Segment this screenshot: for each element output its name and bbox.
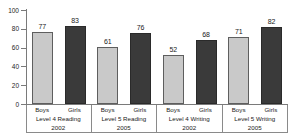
bar-value-label: 68 <box>194 31 218 38</box>
bar <box>228 37 249 104</box>
x-axis-category-label: Girls <box>189 105 221 114</box>
x-axis-group: BoysGirlsLevel 4 Writing2002 <box>157 105 223 133</box>
x-axis-group: BoysGirlsLevel 4 Reading2002 <box>26 105 92 133</box>
x-axis-group: BoysGirlsLevel 5 Reading2005 <box>92 105 158 133</box>
x-axis-group-year-label: 2005 <box>92 123 157 132</box>
x-axis-category-label: Boys <box>157 105 189 114</box>
x-axis-group-year-label: 2002 <box>157 123 222 132</box>
bar-value-label: 61 <box>96 38 120 45</box>
x-axis-category-label: Girls <box>124 105 156 114</box>
x-axis-category-label: Girls <box>255 105 287 114</box>
x-axis-table-left-border <box>26 105 27 133</box>
y-axis-tick-label: 0 <box>0 101 19 108</box>
x-axis-group-subject-label: Level 4 Writing <box>157 114 222 123</box>
bar-value-label: 77 <box>30 23 54 30</box>
bar-value-label: 52 <box>161 46 185 53</box>
plot-area: 7783617652687182 <box>26 10 288 104</box>
bar-value-label: 82 <box>260 18 284 25</box>
grouped-bar-chart: 020406080100 7783617652687182 BoysGirlsL… <box>0 0 303 133</box>
bar <box>32 32 53 104</box>
bar <box>261 27 282 104</box>
x-axis-group-subject-label: Level 5 Reading <box>92 114 157 123</box>
x-axis-group-year-label: 2002 <box>26 123 91 132</box>
x-axis-category-label: Boys <box>92 105 124 114</box>
x-axis-group-subject-label: Level 5 Writing <box>223 114 288 123</box>
x-axis-group-year-label: 2005 <box>223 123 288 132</box>
x-axis-category-label: Boys <box>223 105 255 114</box>
bar-value-label: 71 <box>227 28 251 35</box>
y-axis-tick-label: 40 <box>0 63 19 70</box>
y-axis-tick-label: 80 <box>0 25 19 32</box>
y-axis-tick-label: 100 <box>0 7 19 14</box>
x-axis-label-table: BoysGirlsLevel 4 Reading2002BoysGirlsLev… <box>26 105 288 133</box>
bar <box>65 26 86 104</box>
x-axis-table-bottom-border <box>26 132 288 133</box>
bar <box>163 55 184 104</box>
y-axis-tick-label: 60 <box>0 44 19 51</box>
x-axis-group: BoysGirlsLevel 5 Writing2005 <box>223 105 289 133</box>
bar-value-label: 76 <box>129 24 153 31</box>
x-axis-category-label: Girls <box>58 105 90 114</box>
bar <box>97 47 118 104</box>
bar <box>130 33 151 104</box>
x-axis-category-label: Boys <box>26 105 58 114</box>
bar <box>196 40 217 104</box>
bar-value-label: 83 <box>63 17 87 24</box>
y-axis-tick-label: 20 <box>0 82 19 89</box>
x-axis-group-subject-label: Level 4 Reading <box>26 114 91 123</box>
